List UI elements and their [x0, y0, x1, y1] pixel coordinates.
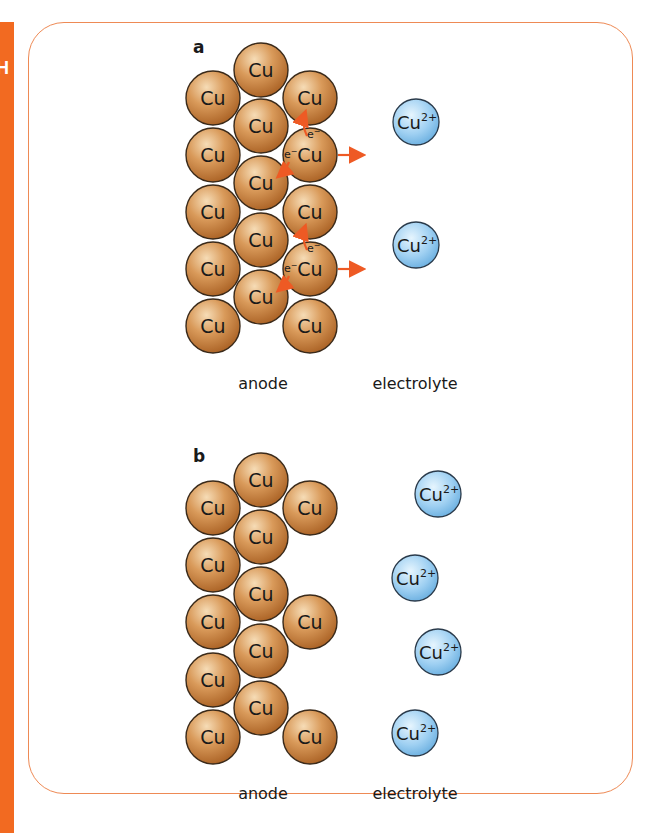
atom-label: Cu	[297, 87, 322, 109]
copper-atom: Cu	[186, 481, 240, 535]
copper-atom: Cu	[283, 481, 337, 535]
copper-atom: Cu	[186, 595, 240, 649]
copper-atom: Cu	[234, 213, 288, 267]
copper-ion: Cu2+	[415, 471, 461, 517]
panel-a-anode-atoms: CuCuCuCuCuCuCuCuCuCuCuCuCuCuCu	[186, 43, 337, 353]
copper-atom: Cu	[234, 156, 288, 210]
panel-b-electrolyte-label: electrolyte	[372, 784, 457, 803]
atom-label: Cu	[248, 229, 273, 251]
copper-atom: Cu	[283, 185, 337, 239]
atom-label: Cu	[200, 497, 225, 519]
atom-label: Cu	[248, 172, 273, 194]
copper-atom: Cu	[234, 99, 288, 153]
panel-b: b CuCuCuCuCuCuCuCuCuCuCuCuCu Cu2+Cu2+Cu2…	[186, 446, 461, 803]
copper-ion: Cu2+	[392, 710, 438, 756]
panel-b-label: b	[193, 446, 205, 466]
atom-label: Cu	[200, 144, 225, 166]
atom-label: Cu	[248, 583, 273, 605]
atom-label: Cu	[248, 286, 273, 308]
copper-atom: Cu	[234, 624, 288, 678]
copper-atom: Cu	[234, 510, 288, 564]
copper-atom: Cu	[283, 299, 337, 353]
atom-label: Cu	[248, 469, 273, 491]
copper-atom: Cu	[186, 538, 240, 592]
copper-atom: Cu	[234, 453, 288, 507]
panel-a-release-arrows	[338, 155, 362, 269]
panel-a-electrolyte-ions: Cu2+Cu2+	[393, 99, 439, 268]
copper-atom: Cu	[186, 71, 240, 125]
copper-ion: Cu2+	[392, 555, 438, 601]
atom-label: Cu	[248, 526, 273, 548]
atom-label: Cu	[297, 201, 322, 223]
atom-label: Cu	[200, 315, 225, 337]
atom-label: Cu	[248, 640, 273, 662]
atom-label: Cu	[248, 697, 273, 719]
atom-label: Cu	[297, 144, 322, 166]
panel-a-label: a	[193, 37, 204, 57]
panel-a-anode-label: anode	[238, 374, 288, 393]
panel-b-electrolyte-ions: Cu2+Cu2+Cu2+Cu2+	[392, 471, 461, 756]
atom-label: Cu	[297, 726, 322, 748]
atom-label: Cu	[297, 258, 322, 280]
atom-label: Cu	[248, 59, 273, 81]
atom-label: Cu	[200, 258, 225, 280]
copper-atom: Cu	[234, 270, 288, 324]
copper-ion: Cu2+	[393, 222, 439, 268]
copper-atom: Cu	[283, 710, 337, 764]
atom-label: Cu	[297, 611, 322, 633]
copper-atom: Cu	[186, 128, 240, 182]
atom-label: Cu	[297, 497, 322, 519]
copper-atom: Cu	[186, 710, 240, 764]
copper-atom: Cu	[186, 242, 240, 296]
copper-atom: Cu	[186, 653, 240, 707]
atom-label: Cu	[297, 315, 322, 337]
atom-label: Cu	[248, 115, 273, 137]
panel-a-electrolyte-label: electrolyte	[372, 374, 457, 393]
copper-ion: Cu2+	[415, 629, 461, 675]
atom-label: Cu	[200, 554, 225, 576]
atom-label: Cu	[200, 87, 225, 109]
copper-atom: Cu	[234, 43, 288, 97]
panel-a: a CuCuCuCuCuCuCuCuCuCuCuCuCuCuCu Cu2+Cu2…	[186, 37, 458, 393]
panel-b-anode-label: anode	[238, 784, 288, 803]
copper-ion: Cu2+	[393, 99, 439, 145]
copper-atom: Cu	[283, 71, 337, 125]
copper-atom: Cu	[234, 567, 288, 621]
atom-label: Cu	[200, 201, 225, 223]
atom-label: Cu	[200, 726, 225, 748]
copper-atom: Cu	[186, 299, 240, 353]
atom-label: Cu	[200, 611, 225, 633]
atom-label: Cu	[200, 669, 225, 691]
copper-atom: Cu	[186, 185, 240, 239]
electrolysis-diagram: a CuCuCuCuCuCuCuCuCuCuCuCuCuCuCu Cu2+Cu2…	[0, 0, 665, 833]
copper-atom: Cu	[283, 595, 337, 649]
panel-b-anode-atoms: CuCuCuCuCuCuCuCuCuCuCuCuCu	[186, 453, 337, 764]
copper-atom: Cu	[234, 681, 288, 735]
